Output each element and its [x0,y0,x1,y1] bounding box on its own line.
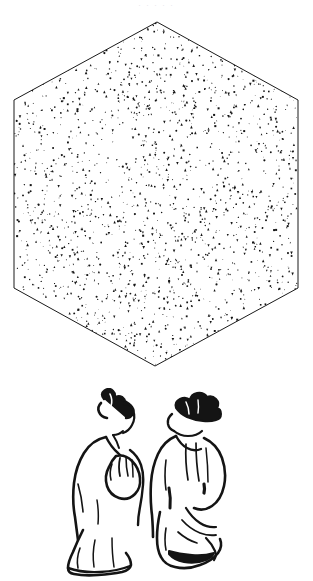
hexagon-svg [0,14,313,378]
left-figure-chin [113,431,123,435]
two-kneeling-figures [0,388,313,581]
scanned-page: . . . . . [0,0,313,581]
left-figure-robe-fold-2 [97,500,98,524]
hexagon-diagram [0,14,313,378]
figures-svg [0,388,313,581]
left-figure [68,389,143,575]
right-figure [151,393,225,568]
right-figure-nape [174,431,202,436]
left-figure-back [73,437,106,540]
left-figure-robe-fold-1 [78,484,83,512]
right-figure-fold-4 [165,460,166,490]
faint-top-text: . . . . . [0,0,313,8]
hexagon-fill [14,22,298,366]
right-figure-hair-icon [168,393,221,431]
right-figure-accent-2 [204,484,205,493]
right-figure-collar [176,436,201,450]
right-figure-accent-1 [169,488,170,508]
left-figure-neck [113,435,119,448]
left-figure-sleeve-fold-1 [119,458,120,476]
